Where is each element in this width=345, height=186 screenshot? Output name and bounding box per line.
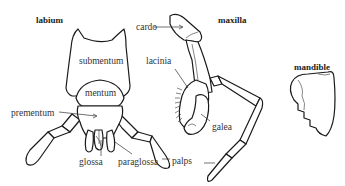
labium-drawing (26, 29, 170, 168)
mandible-shape (290, 72, 335, 136)
mandible-drawing (290, 72, 335, 136)
glossa-lobes (85, 130, 114, 152)
mouthparts-diagram: labium submentum mentum prementum glossa… (0, 0, 345, 186)
glossa-label: glossa (79, 157, 104, 167)
lacinia-leader (175, 69, 188, 88)
prementum-label: prementum (11, 108, 55, 118)
cardo-shape (170, 14, 202, 42)
paraglossa-leader (115, 142, 132, 154)
labium-title: labium (36, 15, 64, 25)
labium-left-palp (26, 114, 80, 165)
lacinia-label: lacinia (146, 56, 172, 66)
cardo-label: cardo (136, 22, 157, 32)
mandible-title: mandible (294, 62, 330, 72)
maxilla-title: maxilla (218, 15, 247, 25)
palps-label: palps (172, 156, 192, 166)
galea-label: galea (212, 122, 233, 132)
paraglossa-label: paraglossa (118, 157, 159, 167)
mentum-label: mentum (85, 88, 117, 98)
submentum-label: submentum (79, 56, 124, 66)
